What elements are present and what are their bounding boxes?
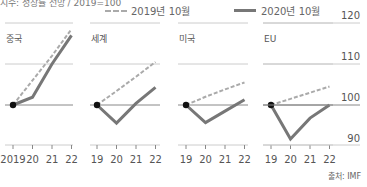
x-tick-label: 22 bbox=[149, 154, 162, 165]
start-point-dot bbox=[94, 102, 100, 108]
series-2019-oct-line bbox=[271, 87, 330, 105]
x-tick-label: 19 bbox=[180, 154, 193, 165]
y-tick-label: 110 bbox=[341, 51, 360, 62]
small-multiples-line-chart: 2019202122중국19202122세계19202122미국19202122… bbox=[0, 0, 367, 187]
series-2020-oct-line bbox=[271, 105, 330, 139]
x-tick-label: 21 bbox=[46, 154, 59, 165]
source-note: 출처: IMF bbox=[328, 170, 361, 181]
x-tick-label: 20 bbox=[110, 154, 123, 165]
y-tick-label: 100 bbox=[341, 92, 360, 103]
x-tick-label: 21 bbox=[130, 154, 143, 165]
start-point-dot bbox=[10, 102, 16, 108]
series-2019-oct-line bbox=[186, 82, 245, 105]
panel-label: 미국 bbox=[179, 34, 195, 44]
panel-label: 세계 bbox=[91, 33, 107, 44]
start-point-dot bbox=[183, 102, 189, 108]
x-tick-label: 20 bbox=[284, 154, 297, 165]
x-tick-label: 2019 bbox=[0, 154, 25, 165]
panel-label: 중국 bbox=[6, 34, 22, 44]
x-tick-label: 20 bbox=[199, 154, 212, 165]
x-tick-label: 22 bbox=[323, 154, 336, 165]
x-tick-label: 19 bbox=[91, 154, 104, 165]
x-tick-label: 21 bbox=[219, 154, 232, 165]
x-tick-label: 22 bbox=[65, 154, 78, 165]
y-tick-label: 120 bbox=[341, 10, 360, 21]
panel-label: EU bbox=[264, 34, 276, 44]
y-tick-label: 90 bbox=[347, 133, 360, 144]
series-2020-oct-line bbox=[186, 100, 245, 123]
series-2019-oct-line bbox=[97, 62, 156, 105]
x-tick-label: 19 bbox=[265, 154, 278, 165]
x-tick-label: 20 bbox=[26, 154, 39, 165]
x-tick-label: 21 bbox=[304, 154, 317, 165]
x-tick-label: 22 bbox=[238, 154, 251, 165]
